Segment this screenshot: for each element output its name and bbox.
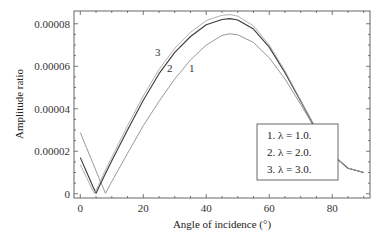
y-tick-label: 0.00008 [34,18,70,30]
legend-entry-1: 1. λ = 1.0. [267,129,312,141]
y-axis-title: Amplitude ratio [13,69,25,139]
y-tick-label: 0.00006 [34,60,70,72]
y-tick-label: 0.00002 [34,145,70,157]
x-tick-label: 40 [201,202,213,214]
curve-label-1: 1 [189,62,195,74]
chart: 020406080 00.000020.000040.000060.00008 … [0,0,389,242]
y-tick-label: 0.00004 [34,103,70,115]
legend-entry-2: 2. λ = 2.0. [267,146,312,158]
legend: 1. λ = 1.0. 2. λ = 2.0. 3. λ = 3.0. [257,124,338,180]
x-tick-label: 0 [78,202,84,214]
curve-annotations: 3 2 1 [155,46,195,74]
legend-entry-3: 3. λ = 3.0. [267,163,312,175]
x-tick-label: 80 [327,202,339,214]
x-tick-label: 60 [264,202,276,214]
x-tick-label: 20 [138,202,150,214]
x-axis-title: Angle of incidence (°) [173,218,271,231]
y-tick-label: 0 [65,188,71,200]
curve-label-2: 2 [167,62,173,74]
curve-label-3: 3 [155,46,161,58]
x-axis: 020406080 [78,11,364,214]
